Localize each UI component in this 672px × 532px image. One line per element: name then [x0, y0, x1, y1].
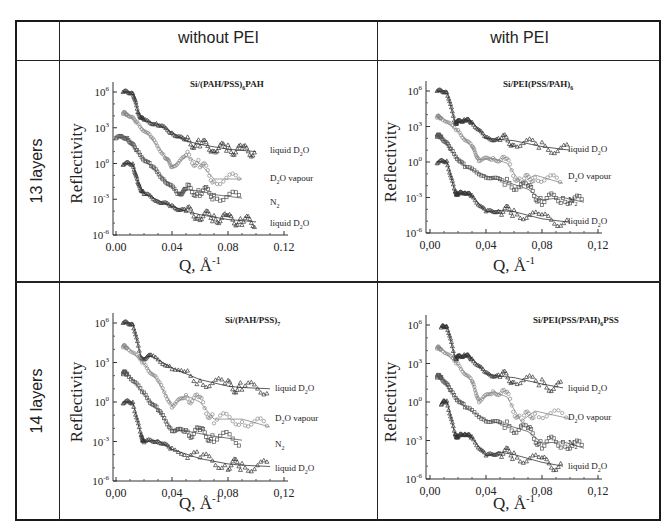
caption-cut-off	[0, 524, 672, 532]
svg-text:liquid D2O: liquid D2O	[568, 383, 608, 395]
svg-text:Reflectivity: Reflectivity	[381, 361, 400, 442]
svg-text:Reflectivity: Reflectivity	[381, 121, 400, 202]
column-header-with-pei: with PEI	[378, 29, 661, 47]
svg-text:liquid D2O: liquid D2O	[275, 463, 315, 475]
svg-text:10-3: 10-3	[405, 434, 422, 447]
svg-text:0.08: 0.08	[218, 240, 239, 254]
reflectivity-plot: 10610310010-310-60,000,040,080,12Reflect…	[378, 283, 661, 520]
svg-text:0,12: 0,12	[274, 486, 295, 500]
svg-text:100: 100	[408, 155, 423, 168]
svg-text:Q, Å-1: Q, Å-1	[179, 492, 221, 513]
svg-text:Q, Å-1: Q, Å-1	[493, 254, 535, 275]
svg-text:10-3: 10-3	[92, 435, 109, 448]
svg-text:0.12: 0.12	[274, 240, 295, 254]
svg-text:0,00: 0,00	[420, 484, 441, 498]
svg-text:liquid D2O: liquid D2O	[275, 383, 315, 395]
svg-text:100: 100	[408, 395, 423, 408]
svg-text:106: 106	[95, 85, 110, 98]
svg-text:106: 106	[408, 84, 423, 97]
svg-text:106: 106	[95, 316, 110, 329]
svg-text:100: 100	[95, 157, 110, 170]
svg-text:0,12: 0,12	[588, 484, 609, 498]
svg-text:Si/PEI(PSS/PAH)6PSS: Si/PEI(PSS/PAH)6PSS	[533, 315, 619, 327]
svg-text:0.04: 0.04	[162, 240, 183, 254]
svg-text:liquid D2O: liquid D2O	[270, 145, 310, 157]
svg-text:D2O vapour: D2O vapour	[568, 412, 611, 424]
svg-text:0,12: 0,12	[588, 238, 609, 252]
svg-text:Reflectivity: Reflectivity	[67, 361, 86, 442]
reflectivity-plot: 10610310010-310-60.000.040.080.12Reflect…	[60, 61, 377, 281]
reflectivity-plot: 10610310010-310-60,000,040,080,12Reflect…	[60, 283, 377, 520]
svg-text:0,00: 0,00	[420, 238, 441, 252]
svg-text:0,08: 0,08	[532, 238, 553, 252]
chart-13-layers-with-pei: 10610310010-310-60,000,040,080,12Reflect…	[378, 61, 661, 281]
svg-text:Si/(PAH/PSS)7: Si/(PAH/PSS)7	[225, 315, 280, 327]
svg-text:0,00: 0,00	[106, 486, 127, 500]
chart-14-layers-without-pei: 10610310010-310-60,000,040,080,12Reflect…	[60, 283, 377, 520]
svg-text:103: 103	[95, 356, 110, 369]
chart-13-layers-without-pei: 10610310010-310-60.000.040.080.12Reflect…	[60, 61, 377, 281]
svg-text:liquid D2O: liquid D2O	[568, 216, 608, 228]
svg-text:D2O vapour: D2O vapour	[568, 171, 611, 183]
svg-text:103: 103	[95, 121, 110, 134]
svg-text:Q, Å-1: Q, Å-1	[179, 254, 221, 275]
svg-text:Si/(PAH/PSS)6PAH: Si/(PAH/PSS)6PAH	[190, 79, 264, 91]
svg-text:Q, Å-1: Q, Å-1	[493, 492, 535, 513]
svg-text:0,04: 0,04	[476, 238, 497, 252]
svg-text:D2O vapour: D2O vapour	[270, 173, 313, 185]
svg-text:10-3: 10-3	[405, 191, 422, 204]
svg-text:103: 103	[408, 357, 423, 370]
svg-text:Si/PEI(PSS/PAH)6: Si/PEI(PSS/PAH)6	[503, 79, 573, 91]
row-header-14-layers: 14 layers	[28, 351, 46, 451]
svg-text:106: 106	[408, 318, 423, 331]
svg-text:100: 100	[95, 395, 110, 408]
svg-text:Reflectivity: Reflectivity	[67, 123, 86, 204]
svg-text:0.00: 0.00	[106, 240, 127, 254]
column-header-without-pei: without PEI	[60, 29, 377, 47]
chart-14-layers-with-pei: 10610310010-310-60,000,040,080,12Reflect…	[378, 283, 661, 520]
row-header-13-layers: 13 layers	[28, 121, 46, 221]
svg-text:D2O vapour: D2O vapour	[275, 413, 318, 425]
reflectivity-plot: 10610310010-310-60,000,040,080,12Reflect…	[378, 61, 661, 281]
svg-text:liquid D2O: liquid D2O	[568, 144, 608, 156]
svg-text:10-3: 10-3	[92, 192, 109, 205]
svg-text:103: 103	[408, 120, 423, 133]
svg-text:liquid D2O: liquid D2O	[568, 461, 608, 473]
svg-text:N2: N2	[275, 439, 285, 451]
svg-text:liquid D2O: liquid D2O	[270, 218, 310, 230]
svg-text:N2: N2	[270, 197, 280, 209]
